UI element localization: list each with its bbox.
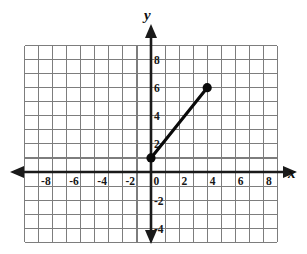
- x-tick-label: 6: [238, 175, 244, 187]
- x-tick-label: -8: [41, 175, 51, 187]
- x-tick-label: 4: [210, 175, 216, 187]
- x-tick-label: 8: [266, 175, 272, 187]
- y-tick-label: -4: [154, 223, 164, 235]
- y-axis-top-arrow: [145, 24, 157, 38]
- y-axis-label: y: [142, 7, 151, 23]
- y-tick-label: 8: [154, 54, 160, 66]
- segment-endpoint-upper: [203, 83, 212, 92]
- segment-endpoint-lower: [146, 153, 155, 162]
- y-tick-label: 6: [154, 82, 160, 94]
- x-tick-label: -4: [97, 175, 107, 187]
- x-tick-label: -6: [69, 175, 79, 187]
- x-axis-left-arrow: [10, 166, 24, 178]
- x-tick-label: -2: [125, 175, 135, 187]
- x-tick-label: 2: [182, 175, 188, 187]
- y-tick-label: 4: [154, 110, 160, 122]
- origin-label: 0: [154, 175, 160, 187]
- coordinate-plane-figure: -8-6-4-2024688642-2-4 x y: [0, 0, 307, 254]
- y-tick-label: -2: [154, 195, 164, 207]
- x-axis-label: x: [287, 165, 296, 181]
- coordinate-plane-svg: -8-6-4-2024688642-2-4 x y: [0, 0, 307, 254]
